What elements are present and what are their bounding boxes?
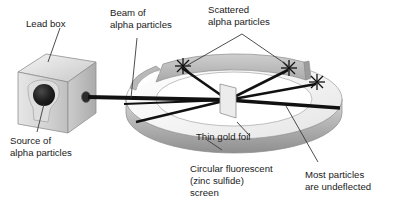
label-lead-box: Lead box [26, 18, 66, 29]
diagram-canvas: Lead box Beam of alpha particles Scatter… [0, 0, 407, 210]
label-beam-of-alpha-line2: alpha particles [110, 19, 172, 30]
label-scattered-alpha-line1: Scattered [208, 4, 249, 15]
label-most-undeflected-line2: are undeflected [305, 181, 371, 192]
label-circular-screen-line2: (zinc sulfide) [190, 175, 244, 186]
scintillation-flash-far-right [309, 74, 325, 90]
label-most-undeflected-line1: Most particles [305, 169, 364, 180]
label-source-of-alpha-line2: alpha particles [10, 147, 72, 158]
lead-box-cube [18, 54, 96, 133]
label-beam-of-alpha-line1: Beam of [110, 7, 146, 18]
label-scattered-alpha-line2: alpha particles [208, 16, 270, 27]
gold-foil-plate [220, 84, 236, 118]
label-circular-screen-line1: Circular fluorescent [190, 163, 273, 174]
rutherford-experiment-diagram: Lead box Beam of alpha particles Scatter… [0, 0, 407, 210]
thin-gold-foil-sheet [220, 84, 236, 118]
label-circular-screen-line3: screen [190, 187, 219, 198]
label-thin-gold-foil: Thin gold foil [196, 131, 250, 142]
label-source-of-alpha-line1: Source of [10, 135, 51, 146]
alpha-source-disc [33, 84, 55, 106]
scintillation-flash-left [175, 58, 191, 74]
